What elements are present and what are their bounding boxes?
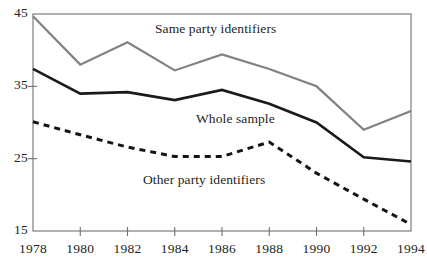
- x-tick-label: 1990: [293, 241, 341, 257]
- series-annotation-0: Same party identifiers: [155, 21, 276, 37]
- series-annotation-2: Other party identifiers: [143, 172, 265, 188]
- y-tick-label: 25: [2, 150, 28, 166]
- x-tick-label: 1992: [340, 241, 388, 257]
- x-tick-label: 1986: [198, 241, 246, 257]
- chart-plot-area: [0, 0, 427, 268]
- x-tick-label: 1980: [56, 241, 104, 257]
- x-tick-label: 1984: [151, 241, 199, 257]
- series-annotation-1: Whole sample: [196, 111, 275, 127]
- x-tick-label: 1988: [245, 241, 293, 257]
- x-tick-label: 1994: [387, 241, 427, 257]
- x-tick-label: 1978: [9, 241, 57, 257]
- y-tick-label: 45: [2, 5, 28, 21]
- x-tick-label: 1982: [104, 241, 152, 257]
- y-tick-label: 35: [2, 77, 28, 93]
- y-tick-label: 15: [2, 222, 28, 238]
- line-chart: 45352515 1978198019821984198619881990199…: [0, 0, 427, 268]
